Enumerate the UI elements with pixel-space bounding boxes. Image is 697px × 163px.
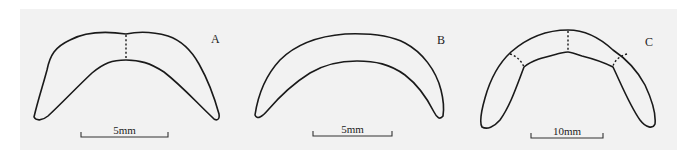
scale-label-c: 10mm (553, 125, 582, 137)
scale-label-b: 5mm (341, 123, 364, 135)
panel-label-a: A (211, 32, 220, 46)
panel-label-c: C (645, 35, 653, 49)
panel-label-b: B (437, 33, 445, 47)
figure-canvas: A 5mm B 5mm C 10mm (0, 0, 697, 163)
figure-panel: A 5mm B 5mm C 10mm (0, 0, 697, 163)
scale-label-a: 5mm (113, 124, 136, 136)
